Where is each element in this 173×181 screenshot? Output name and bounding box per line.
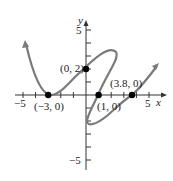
curve-end-arrow-icon [152,63,159,70]
graph: y x 5 −5 −5 5 (0, 2) (−3, 0) (1, 0) (3.8… [0,0,173,181]
point-neg3-0 [45,92,51,98]
y-axis-arrow-icon [84,20,89,26]
curve-start-arrow-icon [22,40,29,48]
x-tick-label-neg5: −5 [14,97,26,109]
y-tick-label-5: 5 [76,24,82,36]
point-label-0-2: (0, 2) [60,62,84,75]
x-axis-label: x [155,96,161,108]
x-axis-arrow-icon [161,93,167,98]
point-1-0 [95,92,101,98]
x-tick-label-5: 5 [145,97,151,109]
point-label-1-0: (1, 0) [97,100,121,113]
y-tick-label-neg5: −5 [69,154,81,166]
point-label-neg3-0: (−3, 0) [34,100,64,113]
point-3p8-0 [129,92,135,98]
point-label-3p8-0: (3.8, 0) [110,77,142,90]
